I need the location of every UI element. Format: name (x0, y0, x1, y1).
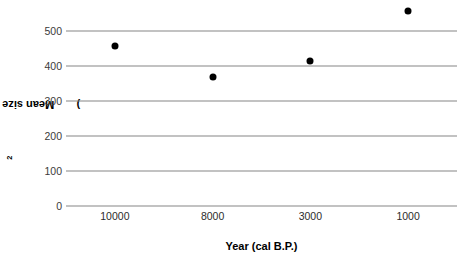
data-point[interactable] (111, 43, 118, 50)
x-tick-label: 3000 (299, 210, 322, 222)
x-tick-label: 8000 (201, 210, 224, 222)
data-point[interactable] (405, 8, 412, 15)
y-tick-label: 500 (26, 25, 62, 37)
y-axis-title: Mean size index (mm2) (2, 0, 22, 210)
x-tick-label: 10000 (100, 210, 129, 222)
y-tick-label: 200 (26, 130, 62, 142)
x-axis-title: Year (cal B.P.) (66, 240, 457, 252)
y-tick-label: 400 (26, 60, 62, 72)
x-tick-label: 1000 (396, 210, 419, 222)
plot-area: 10000800030001000 (66, 0, 457, 264)
gridline (66, 66, 457, 67)
y-tick-label: 300 (26, 95, 62, 107)
gridline (66, 101, 457, 102)
gridline (66, 136, 457, 137)
y-axis-tick-labels: 5004003002001000 (22, 0, 62, 264)
data-point[interactable] (307, 58, 314, 65)
gridline (66, 206, 457, 207)
y-tick-label: 0 (26, 200, 62, 212)
gridline (66, 31, 457, 32)
y-axis-title-superscript: 2 (5, 156, 14, 160)
gridline (66, 171, 457, 172)
data-point[interactable] (209, 73, 216, 80)
scatter-chart-figure: Mean size index (mm2) 5004003002001000 1… (0, 0, 457, 264)
y-tick-label: 100 (26, 165, 62, 177)
